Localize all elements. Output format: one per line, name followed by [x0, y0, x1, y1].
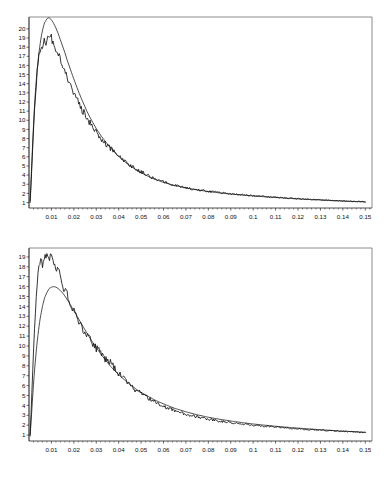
curve-empirical — [30, 34, 365, 202]
x-tick-label: 0.05 — [135, 446, 148, 453]
x-tick-label: 0.12 — [292, 446, 305, 453]
curve-fitted — [30, 18, 365, 202]
y-tick-label: 16 — [19, 62, 26, 69]
y-tick-label: 9 — [22, 352, 26, 359]
curve-empirical — [30, 254, 365, 435]
y-tick-label: 13 — [19, 312, 26, 319]
axis-lines — [29, 248, 372, 441]
y-tick-label: 18 — [19, 263, 26, 270]
y-tick-label: 10 — [19, 116, 26, 123]
x-tick-label: 0.1 — [249, 213, 258, 220]
y-tick-label: 10 — [19, 342, 26, 349]
chart-panel-top: 12345678910111213141516171819200.010.020… — [0, 11, 388, 239]
curve-fitted — [30, 287, 365, 436]
x-tick-label: 0.09 — [225, 213, 238, 220]
y-tick-label: 16 — [19, 283, 26, 290]
y-tick-label: 1 — [22, 431, 26, 438]
x-tick-label: 0.14 — [337, 213, 350, 220]
figure-page: 12345678910111213141516171819200.010.020… — [0, 0, 388, 477]
y-tick-label: 18 — [19, 43, 26, 50]
x-tick-label: 0.08 — [202, 213, 215, 220]
x-tick-label: 0.12 — [292, 213, 305, 220]
x-tick-label: 0.03 — [90, 446, 103, 453]
y-tick-label: 4 — [22, 402, 26, 409]
x-tick-label: 0.13 — [314, 213, 327, 220]
y-tick-label: 14 — [19, 303, 26, 310]
x-tick-label: 0.02 — [68, 213, 81, 220]
y-tick-label: 11 — [19, 107, 26, 114]
y-tick-label: 19 — [19, 34, 26, 41]
x-tick-label: 0.01 — [45, 213, 58, 220]
y-tick-label: 19 — [19, 253, 26, 260]
x-tick-label: 0.01 — [45, 446, 58, 453]
x-tick-label: 0.05 — [135, 213, 148, 220]
x-tick-label: 0.06 — [157, 446, 170, 453]
x-tick-label: 0.02 — [68, 446, 81, 453]
y-tick-label: 6 — [22, 153, 26, 160]
y-tick-label: 1 — [22, 199, 26, 206]
x-tick-label: 0.07 — [180, 446, 193, 453]
x-tick-label: 0.04 — [113, 213, 126, 220]
x-tick-label: 0.13 — [314, 446, 327, 453]
chart-top: 12345678910111213141516171819200.010.020… — [0, 11, 388, 239]
y-tick-label: 3 — [22, 180, 26, 187]
x-tick-label: 0.03 — [90, 213, 103, 220]
x-tick-label: 0.07 — [180, 213, 193, 220]
axis-lines — [29, 17, 372, 208]
y-tick-label: 12 — [19, 322, 26, 329]
y-tick-label: 12 — [19, 98, 26, 105]
x-tick-label: 0.08 — [202, 446, 215, 453]
y-tick-label: 17 — [19, 52, 26, 59]
x-tick-label: 0.11 — [270, 213, 282, 220]
y-tick-label: 15 — [19, 293, 26, 300]
y-tick-label: 8 — [22, 135, 26, 142]
x-tick-label: 0.14 — [337, 446, 350, 453]
x-tick-label: 0.15 — [359, 446, 372, 453]
y-tick-label: 9 — [22, 126, 26, 133]
y-tick-label: 5 — [22, 392, 26, 399]
y-tick-label: 20 — [19, 25, 26, 32]
x-tick-label: 0.1 — [249, 446, 258, 453]
y-tick-label: 3 — [22, 411, 26, 418]
chart-panel-bottom: 123456789101112131415161718190.010.020.0… — [0, 240, 388, 477]
figure-caption — [0, 0, 388, 11]
x-tick-label: 0.09 — [225, 446, 238, 453]
y-tick-label: 4 — [22, 171, 26, 178]
y-tick-label: 7 — [22, 372, 26, 379]
x-tick-label: 0.11 — [270, 446, 282, 453]
y-tick-label: 14 — [19, 80, 26, 87]
y-tick-label: 13 — [19, 89, 26, 96]
y-tick-label: 5 — [22, 162, 26, 169]
y-tick-label: 2 — [22, 190, 26, 197]
y-tick-label: 15 — [19, 71, 26, 78]
x-tick-label: 0.04 — [113, 446, 126, 453]
y-tick-label: 7 — [22, 144, 26, 151]
y-tick-label: 6 — [22, 382, 26, 389]
x-tick-label: 0.15 — [359, 213, 372, 220]
y-tick-label: 2 — [22, 421, 26, 428]
chart-bottom: 123456789101112131415161718190.010.020.0… — [0, 240, 388, 477]
y-tick-label: 11 — [19, 332, 26, 339]
x-tick-label: 0.06 — [157, 213, 170, 220]
y-tick-label: 8 — [22, 362, 26, 369]
y-tick-label: 17 — [19, 273, 26, 280]
